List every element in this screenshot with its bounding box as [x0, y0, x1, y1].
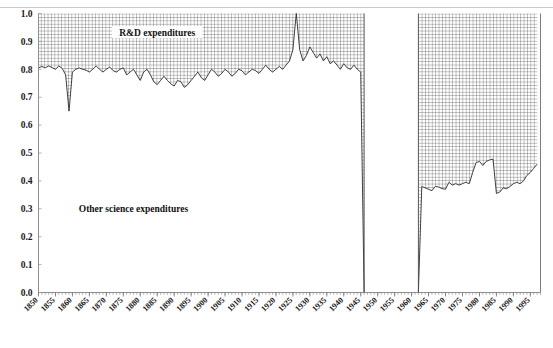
x-tick-label: 1880 [124, 296, 142, 314]
y-tick-label: 0.6 [21, 120, 33, 130]
x-tick-label: 1870 [90, 296, 108, 314]
x-tick-label: 1985 [480, 296, 498, 314]
series-fill-layer [39, 14, 538, 293]
annotation-label: R&D expenditures [119, 28, 195, 38]
y-tick-label: 0.0 [21, 288, 33, 298]
y-tick-label: 0.8 [21, 65, 33, 75]
x-tick-label: 1925 [276, 296, 294, 314]
x-tick-label: 1885 [141, 296, 159, 314]
x-tick-label: 1860 [56, 296, 74, 314]
x-tick-label: 1950 [361, 296, 379, 314]
x-tick-label: 1910 [225, 296, 243, 314]
chart-page: 0.00.10.20.30.40.50.60.70.80.91.0 185018… [0, 0, 553, 348]
x-tick-label: 1945 [344, 296, 362, 314]
x-tick-label: 1875 [107, 296, 125, 314]
x-tick-label: 1980 [463, 296, 481, 314]
y-tick-label: 0.3 [21, 204, 33, 214]
rd-expenditures-area-1 [418, 14, 537, 293]
x-tick-label: 1890 [158, 296, 176, 314]
x-tick-label: 1850 [22, 296, 40, 314]
x-tick-label: 1905 [209, 296, 227, 314]
y-tick-label: 0.5 [21, 148, 33, 158]
y-tick-label: 0.2 [21, 232, 33, 242]
x-tick-label: 1915 [242, 296, 260, 314]
y-tick-label: 0.9 [21, 37, 33, 47]
x-tick-label: 1930 [293, 296, 311, 314]
x-tick-label: 1855 [39, 296, 57, 314]
x-tick-label: 1995 [514, 296, 532, 314]
x-tick-label: 1865 [73, 296, 91, 314]
y-tick-label: 0.4 [21, 176, 33, 186]
x-tick-label: 1920 [259, 296, 277, 314]
x-tick-label: 1965 [412, 296, 430, 314]
x-tick-label: 1955 [378, 296, 396, 314]
y-tick-label: 0.7 [21, 92, 33, 102]
stacked-area-chart: 0.00.10.20.30.40.50.60.70.80.91.0 185018… [0, 0, 553, 348]
x-axis-ticks: 1850185518601865187018751880188518901895… [22, 293, 541, 314]
x-tick-label: 1990 [497, 296, 515, 314]
y-tick-label: 1.0 [21, 9, 33, 19]
x-tick-label: 1940 [327, 296, 345, 314]
x-tick-label: 1900 [192, 296, 210, 314]
x-tick-label: 1895 [175, 296, 193, 314]
chart-container: 0.00.10.20.30.40.50.60.70.80.91.0 185018… [0, 0, 553, 348]
x-tick-label: 1935 [310, 296, 328, 314]
x-tick-label: 1960 [395, 296, 413, 314]
x-tick-label: 1975 [446, 296, 464, 314]
annotation-label: Other science expenditures [79, 204, 189, 214]
y-tick-label: 0.1 [21, 260, 33, 270]
x-tick-label: 1970 [429, 296, 447, 314]
